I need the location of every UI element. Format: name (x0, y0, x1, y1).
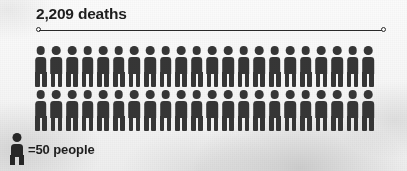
person-icon-body (66, 101, 78, 118)
person-icon-head (239, 90, 248, 99)
person-icon-leg-left (285, 72, 290, 87)
measure-bar-right-endpoint (381, 27, 386, 32)
person-icon-head (68, 90, 77, 99)
person-icon-leg-left (175, 72, 180, 87)
person-icon-leg-left (238, 116, 243, 131)
person-icon-leg-left (97, 116, 102, 131)
person-icon-head (224, 90, 233, 99)
person-icon-leg-left (269, 116, 274, 131)
person-icon (205, 90, 221, 131)
infographic-canvas: 2,209 deaths =50 people (0, 0, 407, 171)
person-icon-head (348, 46, 357, 55)
person-icon-leg-left (160, 116, 165, 131)
person-icon-leg-left (129, 116, 134, 131)
person-icon-body (331, 57, 343, 74)
person-icon-leg-right (260, 72, 265, 87)
person-icon-leg-right (120, 116, 125, 131)
person-icon (283, 46, 299, 87)
person-icon-leg-right (120, 72, 125, 87)
person-icon (80, 46, 96, 87)
person-icon-leg-right (292, 116, 297, 131)
person-icon-leg-right (369, 116, 374, 131)
person-icon (64, 46, 80, 87)
person-icon-body (300, 101, 312, 118)
person-icon-head (146, 90, 155, 99)
person-icon-body (97, 101, 109, 118)
person-icon-leg-right (276, 72, 281, 87)
person-icon-body (191, 101, 203, 118)
person-icon-head (37, 46, 46, 55)
person-icon-leg-left (347, 72, 352, 87)
person-icon (33, 46, 49, 87)
person-icon-leg-right (260, 116, 265, 131)
person-icon-head (13, 133, 22, 142)
person-icon-leg-right (307, 72, 312, 87)
person-icon (329, 46, 345, 87)
person-icon-head (364, 46, 373, 55)
person-icon-head (364, 90, 373, 99)
person-icon-leg-right (198, 116, 203, 131)
person-icon (283, 90, 299, 131)
person-icon-leg-right (354, 116, 359, 131)
person-icon (189, 90, 205, 131)
person-icon-leg-left (238, 72, 243, 87)
person-icon (298, 90, 314, 131)
person-icon-leg-left (113, 72, 118, 87)
person-icon-head (348, 90, 357, 99)
person-icon-leg-right (58, 72, 63, 87)
person-icon-head (302, 46, 311, 55)
person-icon-leg-left (331, 116, 336, 131)
person-icon-head (99, 46, 108, 55)
pictogram-row (33, 87, 376, 131)
person-icon-body (35, 101, 47, 118)
person-icon-head (255, 90, 264, 99)
person-icon (236, 90, 252, 131)
person-icon-head (146, 46, 155, 55)
person-icon-leg-left (362, 116, 367, 131)
person-icon (142, 90, 158, 131)
person-icon-head (52, 90, 61, 99)
person-icon-body (144, 57, 156, 74)
person-icon-head (192, 46, 201, 55)
person-icon-body (175, 101, 187, 118)
person-icon-leg-left (35, 116, 40, 131)
pictogram-rows (33, 43, 376, 131)
person-icon-head (333, 46, 342, 55)
person-icon-head (255, 46, 264, 55)
person-icon-head (83, 46, 92, 55)
person-icon-leg-right (73, 72, 78, 87)
person-icon-body (207, 101, 219, 118)
person-icon-head (161, 46, 170, 55)
person-icon (205, 46, 221, 87)
person-icon-head (224, 46, 233, 55)
person-icon (80, 90, 96, 131)
person-icon-body (253, 57, 265, 74)
person-icon-leg-left (66, 72, 71, 87)
pictogram-row (33, 43, 376, 87)
person-icon-body (51, 101, 63, 118)
person-icon (189, 46, 205, 87)
person-icon-head (37, 90, 46, 99)
person-icon (127, 90, 143, 131)
person-icon-head (270, 46, 279, 55)
person-icon-head (286, 90, 295, 99)
person-icon (158, 46, 174, 87)
person-icon (33, 90, 49, 131)
person-icon-leg-left (175, 116, 180, 131)
person-icon-head (317, 46, 326, 55)
person-icon-body (113, 57, 125, 74)
person-icon-leg-right (338, 116, 343, 131)
person-icon-body (97, 57, 109, 74)
person-icon-head (130, 46, 139, 55)
person-icon-leg-right (89, 72, 94, 87)
person-icon-head (130, 90, 139, 99)
person-icon-leg-left (300, 116, 305, 131)
person-icon-leg-right (369, 72, 374, 87)
person-icon-leg-right (104, 72, 109, 87)
person-icon-body (82, 57, 94, 74)
person-icon-leg-left (222, 116, 227, 131)
person-icon-leg-left (191, 72, 196, 87)
person-icon-head (208, 90, 217, 99)
person-icon-leg-right (292, 72, 297, 87)
person-icon-body (238, 101, 250, 118)
